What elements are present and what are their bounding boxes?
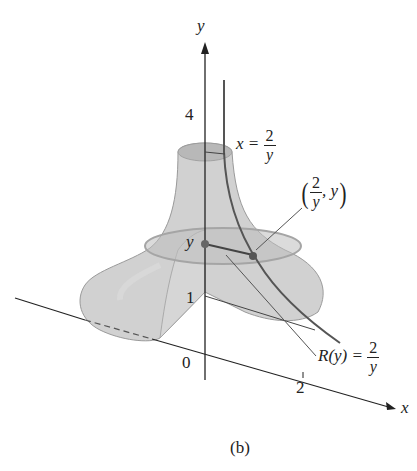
point-label: (2y, y): [300, 175, 348, 210]
y-tick-y: y: [186, 232, 194, 252]
figure-caption: (b): [230, 438, 250, 458]
x-axis-label: x: [401, 398, 409, 418]
x-axis-arrow: [386, 402, 396, 410]
radius-equation-label: R(y) = 2y: [318, 340, 379, 375]
y-axis-arrow: [201, 42, 209, 54]
point-on-curve: [249, 252, 257, 260]
x-tick-2: 2: [296, 378, 305, 398]
point-on-axis: [201, 240, 209, 248]
origin-label: 0: [182, 353, 191, 373]
y-tick-4: 4: [185, 105, 194, 125]
curve-equation-label: x = 2y: [236, 128, 276, 163]
y-axis-label: y: [197, 16, 205, 36]
solid-of-revolution-diagram: [0, 0, 417, 471]
y-tick-1: 1: [186, 288, 195, 308]
cross-section-disk: [145, 228, 301, 264]
x-axis: [15, 298, 85, 320]
